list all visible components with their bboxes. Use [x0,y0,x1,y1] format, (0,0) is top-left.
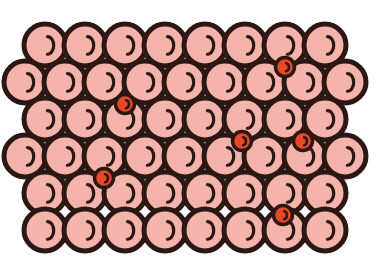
interstitial-atom [274,206,293,225]
host-atom [144,209,186,251]
host-atom [24,209,66,251]
host-atom [304,209,346,251]
host-atom [104,209,146,251]
interstitial-atom [95,169,114,188]
host-atom [184,209,226,251]
host-atom [224,209,266,251]
interstitial-atom [294,132,313,151]
lattice-canvas [0,0,376,272]
interstitial-atom [233,132,252,151]
interstitial-atom [276,58,295,77]
interstitial-atom [116,95,135,114]
lattice-diagram [0,0,376,272]
host-atom [64,209,106,251]
